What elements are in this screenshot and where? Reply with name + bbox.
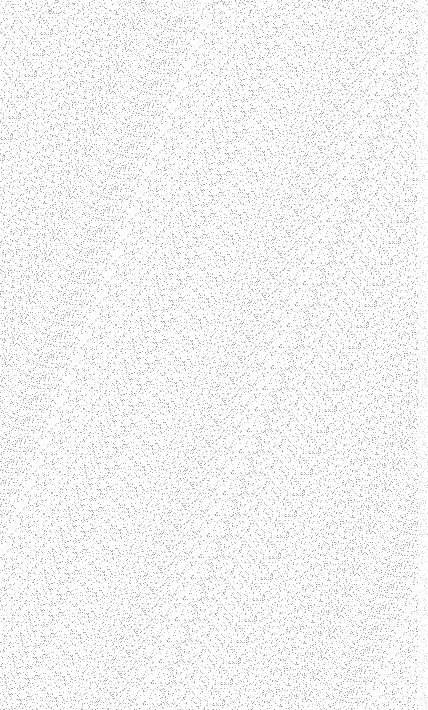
right-edge-fade xyxy=(418,0,428,710)
speckle-noise-layer xyxy=(0,0,428,710)
noise-texture-surface xyxy=(0,0,428,710)
